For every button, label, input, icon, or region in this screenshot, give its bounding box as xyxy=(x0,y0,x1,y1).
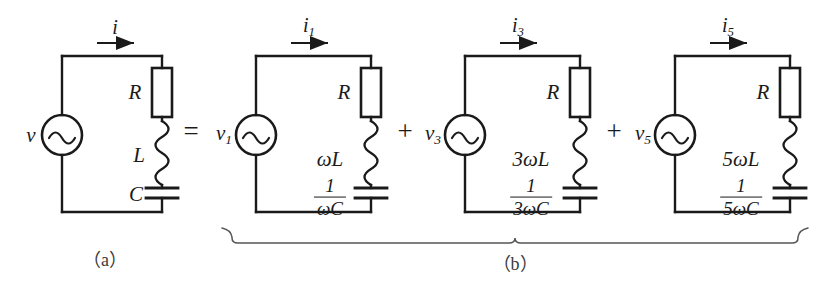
caption-b: （b） xyxy=(493,255,538,273)
current-label-i1: i1 xyxy=(303,15,315,38)
fraction-numerator: 1 xyxy=(510,176,552,197)
capacitor-label-fraction-b3: 1 3ωC xyxy=(510,176,552,219)
circuit-b1-graphics xyxy=(236,43,387,212)
group-brace xyxy=(222,228,808,243)
resistor-label-r-b1: R xyxy=(338,82,351,103)
fraction-denominator: ωC xyxy=(314,197,346,219)
capacitor-label-fraction-b1: 1 ωC xyxy=(314,176,346,219)
resistor-label-r-a: R xyxy=(129,82,142,103)
fraction-numerator: 1 xyxy=(720,176,762,197)
circuit-decomposition-figure: i v R L C = i1 v1 R ωL 1 ωC + i3 v3 R 3ω… xyxy=(0,0,831,289)
source-label-v5: v5 xyxy=(635,123,651,146)
resistor-label-r-b3: R xyxy=(547,82,560,103)
source-label-v: v xyxy=(26,125,35,146)
current-label-i5: i5 xyxy=(722,15,734,38)
fraction-numerator: 1 xyxy=(314,176,346,197)
current-label-i3: i3 xyxy=(512,15,524,38)
inductor-label-wl-b3: 3ωL xyxy=(512,149,549,170)
circuit-a-graphics xyxy=(42,43,178,212)
capacitor-label-c-a: C xyxy=(129,184,143,205)
resistor-label-r-b5: R xyxy=(757,82,770,103)
source-label-v3: v3 xyxy=(425,123,441,146)
current-label-i: i xyxy=(112,17,118,37)
equals-operator: = xyxy=(183,118,198,145)
circuit-schematic-svg xyxy=(0,0,831,289)
plus-operator-2: + xyxy=(606,118,621,145)
fraction-denominator: 5ωC xyxy=(720,197,762,219)
caption-a: （a） xyxy=(83,251,127,269)
capacitor-label-fraction-b5: 1 5ωC xyxy=(720,176,762,219)
plus-operator-1: + xyxy=(397,118,412,145)
inductor-label-wl-b5: 5ωL xyxy=(722,149,759,170)
fraction-denominator: 3ωC xyxy=(510,197,552,219)
inductor-label-wl-b1: ωL xyxy=(317,149,344,170)
inductor-label-l-a: L xyxy=(133,145,145,166)
source-label-v1: v1 xyxy=(216,123,232,146)
